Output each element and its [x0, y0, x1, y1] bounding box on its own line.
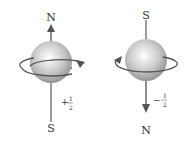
left-arrow-up-icon [47, 24, 55, 32]
right-sphere [125, 39, 167, 81]
left-spin-value: + 1 2 [61, 95, 73, 111]
left-spin-figure: N S + 1 2 [20, 11, 85, 135]
right-spin-figure: S N − 1 2 [114, 9, 177, 137]
right-top-label: S [142, 9, 150, 22]
right-arrow-down-icon [142, 104, 150, 113]
left-bottom-label: S [47, 122, 55, 135]
svg-text:2: 2 [69, 104, 73, 111]
right-spin-value: − 1 2 [153, 92, 167, 108]
svg-text:+: + [61, 97, 69, 107]
svg-text:1: 1 [69, 95, 73, 102]
left-top-label: N [46, 11, 56, 24]
spin-diagram: N S + 1 2 S N − 1 2 [0, 0, 192, 143]
svg-text:1: 1 [163, 92, 167, 99]
left-rotation-arrowhead-icon [76, 60, 85, 68]
svg-text:2: 2 [163, 101, 167, 108]
right-bottom-label: N [141, 124, 151, 137]
svg-text:−: − [153, 95, 161, 105]
